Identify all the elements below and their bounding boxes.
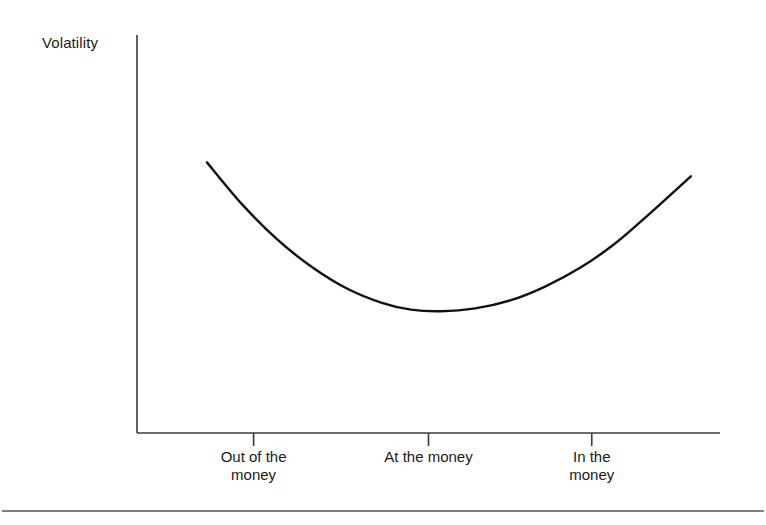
x-axis-ticks — [254, 433, 592, 446]
volatility-smile-curve — [207, 162, 691, 311]
x-tick-label-in-the-money: In the money — [517, 448, 667, 484]
chart-figure: Volatility Out of the money At the money… — [0, 0, 766, 525]
chart-plot-area — [0, 0, 766, 525]
x-tick-label-out-of-the-money: Out of the money — [179, 448, 329, 484]
y-axis-label: Volatility — [42, 34, 98, 51]
x-tick-label-at-the-money: At the money — [354, 448, 504, 466]
